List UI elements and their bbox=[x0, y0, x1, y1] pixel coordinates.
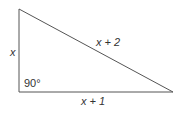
right-angle-label: 90° bbox=[24, 77, 41, 89]
base-label: x + 1 bbox=[80, 95, 105, 107]
side-label-x: x bbox=[9, 46, 16, 58]
hypotenuse-label: x + 2 bbox=[95, 36, 120, 48]
right-triangle bbox=[19, 9, 173, 92]
triangle-diagram: x x + 2 x + 1 90° bbox=[0, 0, 189, 113]
